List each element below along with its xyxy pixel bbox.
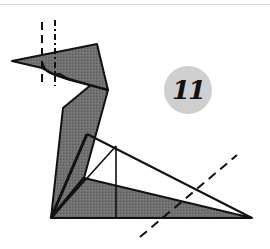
origami-diagram: 11 (0, 0, 270, 249)
step-number-badge: 11 (164, 66, 212, 114)
head-shape (12, 44, 108, 90)
origami-figure (0, 0, 270, 249)
step-number: 11 (172, 75, 204, 105)
